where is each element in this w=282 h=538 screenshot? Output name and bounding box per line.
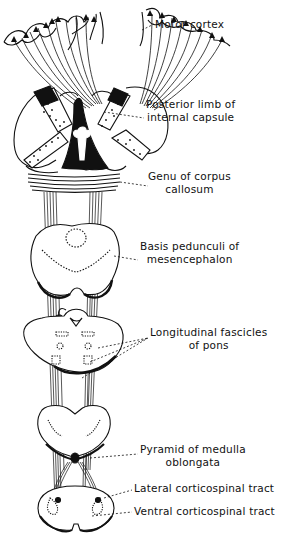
label-longitudinal-fascicles-pons: Longitudinal fascicles of pons xyxy=(150,326,267,352)
label-lateral-corticospinal-tract: Lateral corticospinal tract xyxy=(134,482,274,495)
label-line: Posterior limb of xyxy=(146,98,235,111)
label-motor-cortex-text: Motor cortex xyxy=(155,18,224,30)
label-pyramid-medulla: Pyramid of medulla oblongata xyxy=(140,443,246,469)
label-line: Lateral corticospinal tract xyxy=(134,482,274,494)
pons-section xyxy=(24,309,123,374)
mesencephalon-section xyxy=(31,224,119,298)
label-basis-pedunculi: Basis pedunculi of mesencephalon xyxy=(140,240,239,266)
medulla-section xyxy=(38,406,111,464)
label-motor-cortex: Motor cortex xyxy=(155,18,224,31)
label-line: Ventral corticospinal tract xyxy=(134,505,275,517)
label-line: Genu of corpus xyxy=(148,170,231,183)
label-line: callosum xyxy=(148,183,231,196)
label-line: Longitudinal fascicles xyxy=(150,326,267,339)
corpus-callosum-bands xyxy=(28,174,120,192)
label-line: oblongata xyxy=(140,456,246,469)
label-genu-corpus-callosum: Genu of corpus callosum xyxy=(148,170,231,196)
label-line: Pyramid of medulla xyxy=(140,443,246,456)
label-line: mesencephalon xyxy=(140,253,239,266)
label-ventral-corticospinal-tract: Ventral corticospinal tract xyxy=(134,505,275,518)
spinal-cord-section xyxy=(38,486,114,531)
label-line: of pons xyxy=(150,339,267,352)
label-posterior-limb-internal-capsule: Posterior limb of internal capsule xyxy=(146,98,235,124)
label-line: internal capsule xyxy=(146,111,235,124)
label-line: Basis pedunculi of xyxy=(140,240,239,253)
